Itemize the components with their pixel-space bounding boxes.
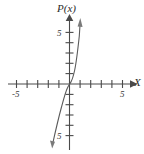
x-axis-tick-label-positive-five: 5 — [120, 89, 125, 99]
y-axis-label: P(x) — [56, 2, 76, 15]
curve-bottom-arrow-icon — [50, 141, 55, 149]
y-axis-tick-label-positive-five: 5 — [57, 28, 62, 38]
x-axis-tick-label-negative-five: -5 — [12, 89, 20, 99]
y-axis-arrow-icon — [66, 14, 74, 21]
polynomial-graph-figure: P(x) X -5 5 5 5 — [0, 0, 144, 154]
y-axis-tick-label-negative-five: 5 — [57, 131, 62, 141]
x-axis-label: X — [133, 76, 142, 88]
curve-top-arrow-icon — [78, 18, 83, 27]
plot-canvas: P(x) X -5 5 5 5 — [0, 0, 144, 154]
